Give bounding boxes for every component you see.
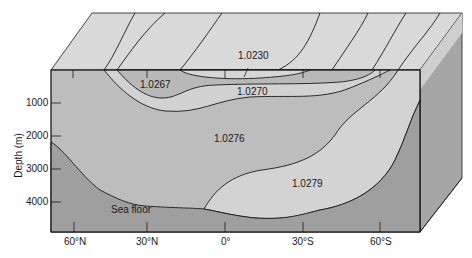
label-density-1-0279: 1.0279 (292, 178, 323, 189)
density-cross-section-diagram (0, 0, 472, 258)
label-density-1-0270: 1.0270 (237, 86, 268, 97)
y-tick-1000: 1000 (26, 97, 48, 108)
y-axis-label: Depth (m) (13, 133, 24, 177)
x-tick-equator: 0° (221, 236, 231, 247)
label-density-1-0230: 1.0230 (238, 50, 269, 61)
x-tick-30s: 30°S (292, 236, 314, 247)
y-tick-2000: 2000 (26, 130, 48, 141)
label-density-1-0276: 1.0276 (214, 133, 245, 144)
x-tick-60s: 60°S (370, 236, 392, 247)
y-tick-3000: 3000 (26, 163, 48, 174)
x-tick-30n: 30°N (136, 236, 158, 247)
y-tick-4000: 4000 (26, 196, 48, 207)
label-density-1-0267: 1.0267 (140, 79, 171, 90)
x-tick-60n: 60°N (64, 236, 86, 247)
label-sea-floor: Sea floor (111, 204, 151, 215)
